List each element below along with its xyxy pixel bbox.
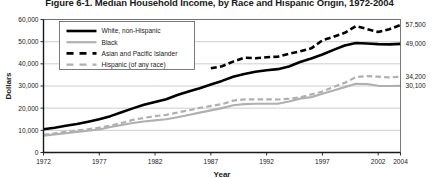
x-axis-tick-label: 1977 [92,158,107,165]
chart-legend: White, non-HispanicBlackAsian and Pacifi… [60,22,195,70]
legend-label: White, non-Hispanic [102,27,162,35]
y-axis-tick-label: 50,000 [18,38,39,45]
x-axis-tick-label: 1997 [315,158,330,165]
legend-label: Black [102,39,119,46]
y-axis-tick-label: 20,000 [18,105,39,112]
y-axis-label: Dollars [4,72,13,100]
series-end-label: 34,200 [406,73,427,80]
y-axis-tick-label: 10,000 [18,127,39,134]
chart-canvas: 010,00020,00030,00040,00050,00060,000 19… [0,0,439,177]
series-end-label: 49,000 [406,40,427,47]
y-axis-tick-label: 30,000 [18,82,39,89]
y-axis-tick-label: 60,000 [18,16,39,23]
series-end-label: 57,500 [406,21,427,28]
x-axis-tick-label: 1987 [204,158,219,165]
series-end-value-labels: 57,50049,00034,20030,100 [406,21,427,89]
y-axis-tick-labels: 010,00020,00030,00040,00050,00060,000 [18,16,39,156]
x-axis-tick-labels: 19721977198219871992199720022004 [36,158,408,165]
figure-title: Figure 6-1. Median Household Income, by … [0,0,439,8]
x-axis-tick-label: 2002 [371,158,386,165]
series-end-label: 30,100 [406,82,427,89]
x-axis-tick-label: 1972 [36,158,51,165]
x-axis-label: Year [214,170,231,178]
legend-label: Hispanic (of any race) [102,61,166,69]
x-axis-tick-label: 1982 [148,158,163,165]
figure-container: Figure 6-1. Median Household Income, by … [0,0,439,177]
y-axis-tick-label: 0 [35,149,39,156]
x-axis-tick-label: 1992 [259,158,274,165]
series-line [44,76,401,135]
series-line [211,25,401,68]
x-axis-tick-label: 2004 [393,158,408,165]
y-axis-tick-label: 40,000 [18,60,39,67]
legend-label: Asian and Pacific Islander [102,50,179,57]
